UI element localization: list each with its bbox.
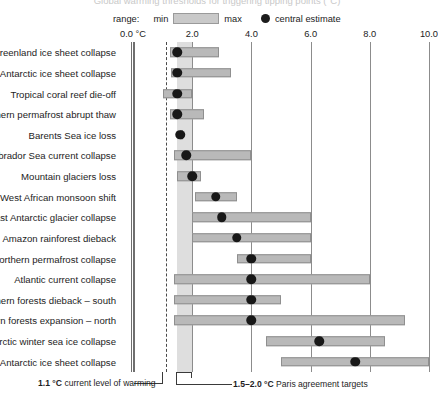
x-tick-label: 8.0 xyxy=(363,29,376,39)
central-estimate-dot xyxy=(211,192,221,202)
chart-row: Mountain glaciers loss xyxy=(0,166,434,187)
x-tick-label: 0.0 °C xyxy=(120,29,146,39)
chart-footnotes: 1.1 °C current level of warming 1.5–2.0 … xyxy=(0,372,434,395)
chart-row: Arctic winter sea ice collapse xyxy=(0,331,434,352)
paris-bracket xyxy=(176,372,192,378)
central-estimate-dot xyxy=(247,274,257,284)
range-bar xyxy=(174,274,369,284)
category-label: Tropical coral reef die-off xyxy=(10,88,116,99)
chart-row: East Antarctic glacier collapse xyxy=(0,207,434,228)
category-label: Northern permafrost collapse xyxy=(0,253,116,264)
x-tick-label: 2.0 xyxy=(186,29,199,39)
chart-title-partial: Global warming thresholds for triggering… xyxy=(0,0,434,11)
category-label: Northern permafrost abrupt thaw xyxy=(0,109,116,120)
chart-row: East Antarctic ice sheet collapse xyxy=(0,351,434,372)
x-tick-label: 10.0 xyxy=(420,29,438,39)
x-tick-label: 4.0 xyxy=(245,29,258,39)
central-estimate-dot xyxy=(217,213,227,223)
category-label: West Antarctic ice sheet collapse xyxy=(0,67,116,78)
current-warming-value: 1.1 °C xyxy=(38,378,62,388)
central-estimate-dot xyxy=(315,336,325,346)
range-bar xyxy=(192,213,310,223)
current-warming-note: 1.1 °C current level of warming xyxy=(38,378,156,388)
paris-leader-h xyxy=(176,384,232,385)
category-label: Arctic winter sea ice collapse xyxy=(0,336,116,347)
legend-max-label: max xyxy=(224,14,242,24)
chart-row: Labrador Sea current collapse xyxy=(0,145,434,166)
chart-row: Northern forests dieback – south xyxy=(0,290,434,311)
chart-row: Atlantic current collapse xyxy=(0,269,434,290)
chart-row: Tropical coral reef die-off xyxy=(0,83,434,104)
paris-value: 1.5–2.0 °C xyxy=(233,379,274,389)
chart-row: Northern permafrost abrupt thaw xyxy=(0,104,434,125)
chart-row: West African monsoon shift xyxy=(0,186,434,207)
legend-central-dot-icon xyxy=(261,14,270,23)
central-estimate-dot xyxy=(173,48,183,58)
category-label: Northern forests dieback – south xyxy=(0,294,116,305)
chart-row: Barents Sea ice loss xyxy=(0,125,434,146)
current-warming-text: current level of warming xyxy=(64,378,155,388)
category-label: Mountain glaciers loss xyxy=(21,171,116,182)
category-label: Barents Sea ice loss xyxy=(29,129,116,140)
plot-area: Greenland ice sheet collapseWest Antarct… xyxy=(0,42,434,372)
legend-min-label: min xyxy=(153,14,168,24)
x-axis-tick-labels: 0.0 °C2.04.06.08.010.0 xyxy=(0,29,434,41)
category-label: Labrador Sea current collapse xyxy=(0,150,116,161)
chart-row: Amazon rainforest dieback xyxy=(0,228,434,249)
category-label: East Antarctic ice sheet collapse xyxy=(0,356,116,367)
chart-row: Northern forests expansion – north xyxy=(0,310,434,331)
category-label: Greenland ice sheet collapse xyxy=(0,47,116,58)
paris-text: Paris agreement targets xyxy=(276,379,368,389)
range-bar xyxy=(174,316,405,326)
central-estimate-dot xyxy=(247,254,257,264)
central-estimate-dot xyxy=(247,295,257,305)
category-label: East Antarctic glacier collapse xyxy=(0,212,116,223)
central-estimate-dot xyxy=(176,130,186,140)
central-estimate-dot xyxy=(173,89,183,99)
category-label: Amazon rainforest dieback xyxy=(2,232,116,243)
central-estimate-dot xyxy=(187,171,197,181)
central-estimate-dot xyxy=(350,357,360,367)
category-label: West African monsoon shift xyxy=(0,191,116,202)
central-estimate-dot xyxy=(182,151,192,161)
category-label: Atlantic current collapse xyxy=(14,274,116,285)
chart-row: Greenland ice sheet collapse xyxy=(0,42,434,63)
central-estimate-dot xyxy=(232,233,242,243)
legend-central-label: central estimate xyxy=(275,14,341,24)
paris-note: 1.5–2.0 °C Paris agreement targets xyxy=(233,379,368,389)
central-estimate-dot xyxy=(247,316,257,326)
range-bar xyxy=(174,295,281,305)
chart-row: West Antarctic ice sheet collapse xyxy=(0,63,434,84)
range-bar xyxy=(192,233,310,243)
category-label: Northern forests expansion – north xyxy=(0,315,116,326)
chart-row: Northern permafrost collapse xyxy=(0,248,434,269)
legend-range-swatch xyxy=(173,13,219,24)
range-bar xyxy=(266,336,384,346)
central-estimate-dot xyxy=(173,109,183,119)
x-tick-label: 6.0 xyxy=(304,29,317,39)
legend-range-label: range: xyxy=(113,14,139,24)
central-estimate-dot xyxy=(173,68,183,78)
chart-legend: range: min max central estimate xyxy=(0,13,434,27)
